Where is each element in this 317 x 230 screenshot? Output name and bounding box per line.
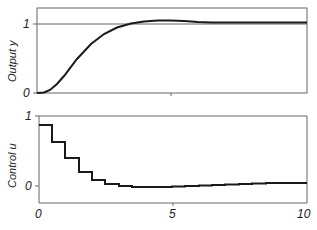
output-curve bbox=[37, 21, 307, 94]
ytick-label-0-bottom: 0 bbox=[25, 179, 32, 193]
chart-canvas: 1 0 Output y 1 0 Control u 0 5 10 bbox=[0, 0, 317, 230]
bottom-plot: 1 0 Control u 0 5 10 bbox=[6, 109, 311, 221]
top-plot: 1 0 Output y bbox=[6, 8, 307, 100]
xtick-label-0: 0 bbox=[35, 207, 42, 221]
ytick-label-1: 1 bbox=[23, 17, 30, 31]
ytick-label-1-bottom: 1 bbox=[25, 109, 32, 123]
ytick-label-0: 0 bbox=[23, 86, 30, 100]
control-step-curve bbox=[39, 125, 307, 187]
xtick-label-10: 10 bbox=[297, 207, 311, 221]
xtick-label-5: 5 bbox=[169, 207, 176, 221]
y-axis-label-control: Control u bbox=[6, 143, 18, 188]
y-axis-label-output: Output y bbox=[6, 39, 18, 82]
